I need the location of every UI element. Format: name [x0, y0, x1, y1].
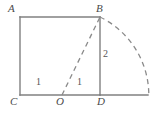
length-label-CO: 1	[36, 77, 41, 87]
vertex-label-A: A	[8, 3, 15, 14]
vertex-label-C: C	[10, 96, 17, 107]
vertex-label-O: O	[56, 96, 64, 107]
vertex-label-D: D	[97, 96, 105, 107]
figure-canvas	[0, 0, 155, 115]
length-label-BD: 2	[103, 49, 108, 59]
length-label-OD: 1	[77, 77, 82, 87]
vertex-label-B: B	[96, 3, 103, 14]
geometry-figure: A B C O D 1 1 2	[0, 0, 155, 115]
